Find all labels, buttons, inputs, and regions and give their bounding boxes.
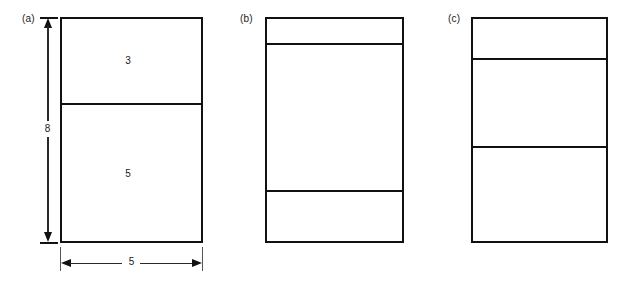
panel-b-rectangle (265, 17, 404, 243)
width-dimension-arrow-right (192, 259, 202, 267)
width-dimension-ext-right (202, 247, 203, 271)
height-dimension-arrow-down (44, 232, 52, 242)
height-dimension-value: 8 (41, 123, 54, 135)
width-dimension-line-left (70, 263, 122, 264)
figure-canvas: (a) 3 5 8 5 (b) (c) (0, 0, 620, 283)
panel-b-divider-1 (265, 43, 404, 45)
panel-a-divider-1 (60, 103, 203, 105)
height-dimension-tick-bottom (40, 242, 58, 244)
panel-b-divider-2 (265, 190, 404, 192)
panel-label-b: (b) (240, 13, 253, 25)
panel-label-c: (c) (448, 13, 460, 25)
panel-a-cell-label-top: 3 (123, 55, 133, 67)
panel-label-a: (a) (22, 13, 35, 25)
panel-a-cell-label-bottom: 5 (123, 168, 133, 180)
height-dimension-line-upper (47, 26, 48, 121)
panel-c-divider-2 (471, 146, 608, 148)
width-dimension-value: 5 (125, 256, 138, 268)
width-dimension-line-right (140, 263, 192, 264)
height-dimension-line-lower (47, 137, 48, 233)
panel-c-rectangle (471, 17, 608, 243)
panel-a-rectangle (60, 17, 203, 243)
panel-c-divider-1 (471, 58, 608, 60)
